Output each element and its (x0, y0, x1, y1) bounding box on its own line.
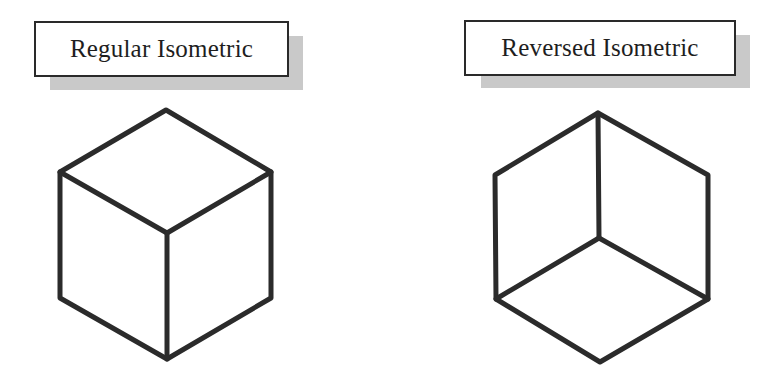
cube-drawings (0, 0, 780, 381)
regular-isometric-cube (60, 110, 271, 359)
reversed-cube-edge-left (496, 238, 599, 299)
regular-cube-edge-right (167, 172, 271, 233)
reversed-isometric-cube (495, 113, 708, 362)
regular-cube-edge-left (60, 172, 167, 233)
reversed-cube-edge-right (599, 238, 708, 299)
reversed-cube-edge-vertical (598, 113, 599, 238)
